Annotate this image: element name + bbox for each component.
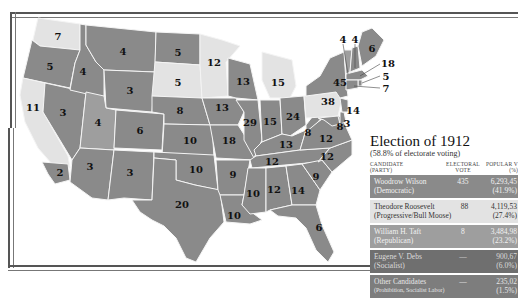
electoral-vote: 435: [449, 177, 476, 198]
votes-ME: 6: [369, 43, 376, 54]
votes-WV: 8: [305, 127, 312, 138]
popular-percent: (6.0%): [476, 261, 517, 270]
table-row-wilson: Woodrow Wilson(Democratic) 435 6,293,45(…: [370, 175, 518, 198]
electoral-vote: —: [449, 252, 476, 273]
votes-NC: 12: [320, 151, 334, 162]
votes-AL: 12: [267, 184, 281, 195]
votes-SD: 5: [175, 77, 182, 88]
votes-TN: 12: [265, 156, 279, 167]
electoral-vote: 8: [449, 227, 476, 248]
legend-title: Election of 1912: [370, 133, 518, 149]
votes-WA: 7: [55, 31, 62, 42]
candidate-party: (Democratic): [374, 186, 449, 195]
state-RI: [358, 80, 362, 86]
popular-percent: (1.5%): [476, 286, 517, 295]
legend-subtitle: (58.8% of electorate voting): [370, 149, 518, 159]
table-header: CANDIDATE(PARTY) ELECTORALVOTE POPULAR V…: [370, 161, 518, 173]
header-vote: VOTE: [446, 167, 480, 173]
votes-FL: 6: [316, 222, 323, 233]
votes-OR: 5: [47, 61, 54, 72]
votes-PA: 38: [321, 96, 335, 107]
candidate-name: Woodrow Wilson: [374, 177, 449, 186]
votes-NM: 3: [127, 167, 134, 178]
votes-CA-south: 2: [57, 167, 64, 178]
table-row-other: Other Candidates(Prohibition, Socialist …: [370, 275, 518, 298]
popular-percent: (41.9%): [476, 186, 517, 195]
votes-NE: 8: [177, 105, 184, 116]
popular-percent: (23.2%): [476, 236, 517, 245]
electoral-vote: —: [449, 277, 476, 298]
votes-MA: 18: [381, 58, 395, 69]
popular-vote: 6,293,45: [476, 177, 517, 186]
votes-LA: 10: [227, 210, 241, 221]
candidate-name: Eugene V. Debs: [374, 252, 449, 261]
votes-WY: 3: [127, 85, 134, 96]
header-party: (PARTY): [370, 167, 446, 173]
votes-IL: 29: [243, 117, 257, 128]
votes-KS: 10: [183, 135, 197, 146]
votes-NY: 45: [333, 77, 347, 88]
votes-TX: 20: [175, 199, 189, 210]
votes-MN: 12: [207, 57, 221, 68]
votes-RI: 5: [383, 71, 390, 82]
votes-VT: 4: [340, 34, 347, 45]
state-MI: [262, 52, 296, 98]
votes-MD: 8: [337, 121, 344, 132]
state-AZ: [70, 148, 114, 200]
votes-MI: 15: [271, 77, 285, 88]
state-CT: [346, 80, 358, 90]
votes-NJ: 14: [346, 105, 360, 116]
candidate-party: (Progressive/Bull Moose): [374, 211, 451, 220]
candidate-name: Theodore Roosevelt: [374, 202, 451, 211]
candidate-party: (Prohibition, Socialist Labor): [374, 286, 449, 295]
table-row-debs: Eugene V. Debs(Socialist) — 900,67(6.0%): [370, 250, 518, 273]
votes-AZ: 3: [87, 161, 94, 172]
election-results-legend: Election of 1912 (58.8% of electorate vo…: [370, 133, 518, 298]
votes-OK: 10: [189, 164, 203, 175]
votes-CO: 6: [137, 125, 144, 136]
votes-ID: 4: [80, 66, 87, 77]
popular-vote: 235,02: [476, 277, 517, 286]
state-NY: [306, 52, 348, 98]
table-row-taft: William H. Taft(Republican) 8 3,484,98(2…: [370, 225, 518, 248]
candidate-name: William H. Taft: [374, 227, 449, 236]
votes-UT: 4: [95, 117, 102, 128]
popular-vote: 3,484,98: [476, 227, 517, 236]
header-percent: (%): [480, 167, 518, 173]
votes-WI: 13: [236, 76, 250, 87]
candidate-party: (Republican): [374, 236, 449, 245]
votes-CA: 11: [26, 102, 40, 113]
popular-vote: 900,67: [476, 252, 517, 261]
votes-CT: 7: [383, 83, 390, 94]
votes-MS: 10: [246, 188, 260, 199]
state-FL: [270, 205, 334, 262]
votes-NH: 4: [352, 34, 359, 45]
votes-IA: 13: [215, 102, 229, 113]
popular-percent: (27.4%): [478, 211, 517, 220]
votes-MO: 18: [222, 135, 236, 146]
votes-SC: 9: [313, 171, 320, 182]
votes-MT: 4: [120, 46, 127, 57]
votes-GA: 14: [291, 185, 305, 196]
votes-VA: 12: [319, 133, 333, 144]
votes-KY: 13: [279, 139, 293, 150]
votes-IN: 15: [263, 116, 277, 127]
votes-DE: 3: [344, 118, 351, 129]
votes-NV: 3: [60, 107, 67, 118]
popular-vote: 4,119,53: [478, 202, 517, 211]
votes-AR: 9: [230, 169, 237, 180]
electoral-vote: 88: [451, 202, 477, 223]
votes-ND: 5: [175, 47, 182, 58]
table-row-roosevelt: Theodore Roosevelt(Progressive/Bull Moos…: [370, 200, 518, 223]
candidate-party: (Socialist): [374, 261, 449, 270]
candidate-name: Other Candidates: [374, 277, 449, 286]
votes-OH: 24: [286, 111, 300, 122]
